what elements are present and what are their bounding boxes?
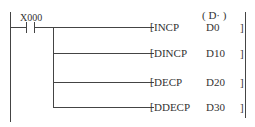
right-power-rail <box>245 12 246 118</box>
contact-label: X000 <box>20 12 42 23</box>
operand-4: D30 <box>206 102 225 113</box>
bracket-close: ] <box>240 77 244 88</box>
bracket-close: ] <box>240 102 244 113</box>
operand-header: ( D· ) <box>202 10 226 21</box>
wire <box>10 27 26 28</box>
instruction-3: DECP <box>154 77 182 88</box>
left-power-rail <box>10 12 11 122</box>
operand-3: D20 <box>206 77 225 88</box>
bracket-close: ] <box>240 48 244 59</box>
wire <box>35 27 53 28</box>
instruction-2: DINCP <box>154 48 187 59</box>
operand-2: D10 <box>206 48 225 59</box>
branch-vertical <box>53 27 54 107</box>
rung-wire <box>53 27 154 28</box>
contact-bar-left <box>26 22 27 33</box>
operand-1: D0 <box>206 22 219 33</box>
rung-wire <box>53 107 154 108</box>
bracket-open: [ <box>150 21 154 32</box>
rung-wire <box>53 53 154 54</box>
instruction-4: DDECP <box>154 102 190 113</box>
instruction-1: INCP <box>154 22 179 33</box>
ladder-diagram: X000 ( D· ) INCP D0 [ ] [ DINCP D10 ] [ … <box>0 0 255 127</box>
bracket-close: ] <box>240 22 244 33</box>
rung-wire <box>53 82 154 83</box>
